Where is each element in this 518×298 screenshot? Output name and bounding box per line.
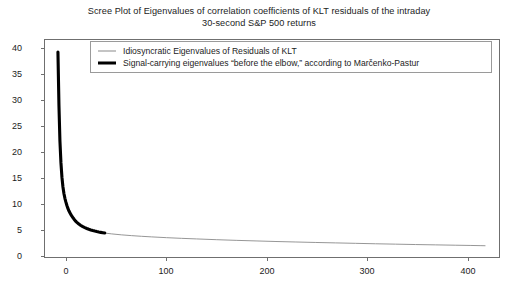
x-tick-label-300: 300 [347,267,387,276]
x-tick-label-200: 200 [247,267,287,276]
chart-legend: Idiosyncratic Eigenvalues of Residuals o… [90,41,492,73]
signal-carrying-eigenvalues-curve [58,52,105,233]
x-tick-mark-100 [166,258,167,261]
y-tick-label-10: 10 [0,200,22,209]
y-tick-label-20: 20 [0,148,22,157]
legend-item-idiosyncratic: Idiosyncratic Eigenvalues of Residuals o… [96,45,485,57]
chart-title-line-2: 30-second S&P 500 returns [0,17,518,29]
scree-plot-figure: Scree Plot of Eigenvalues of correlation… [0,0,518,298]
y-axis: 40 35 30 25 20 15 10 5 0 [0,0,44,298]
legend-item-signal-carrying: Signal-carrying eigenvalues “before the … [96,57,485,69]
y-tick-label-25: 25 [0,122,22,131]
x-tick-mark-400 [468,258,469,261]
y-tick-label-30: 30 [0,96,22,105]
x-axis: 0 100 200 300 400 [0,258,518,298]
legend-line-thick-icon [96,57,118,69]
legend-label-idiosyncratic: Idiosyncratic Eigenvalues of Residuals o… [123,46,297,57]
x-tick-label-0: 0 [46,267,86,276]
y-tick-label-5: 5 [0,226,22,235]
chart-title-line-1: Scree Plot of Eigenvalues of correlation… [0,5,518,17]
y-tick-label-40: 40 [0,44,22,53]
x-tick-label-400: 400 [448,267,488,276]
idiosyncratic-eigenvalues-curve [105,233,485,246]
x-tick-label-100: 100 [146,267,186,276]
legend-label-signal-carrying: Signal-carrying eigenvalues “before the … [123,58,419,69]
x-tick-mark-300 [367,258,368,261]
chart-title: Scree Plot of Eigenvalues of correlation… [0,5,518,29]
x-tick-mark-200 [267,258,268,261]
y-tick-label-15: 15 [0,174,22,183]
x-tick-mark-0 [66,258,67,261]
legend-line-thin-icon [96,45,118,57]
y-tick-label-35: 35 [0,70,22,79]
